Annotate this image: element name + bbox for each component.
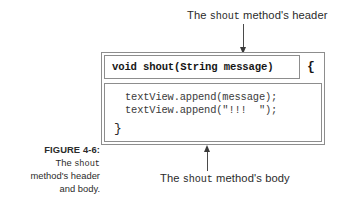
arrow-head xyxy=(204,145,210,152)
open-brace-glyph: { xyxy=(307,59,315,74)
header-callout-prefix: The xyxy=(187,9,210,21)
header-callout-suffix: method's header xyxy=(240,9,328,21)
figure-caption-text-a: The xyxy=(55,157,74,168)
figure-caption: FIGURE 4-6: The shout method's header an… xyxy=(8,144,100,195)
arrow-down-icon xyxy=(239,24,248,54)
arrow-shaft xyxy=(243,24,244,48)
method-header-box: void shout(String message) xyxy=(104,55,300,79)
figure-caption-method-name: shout xyxy=(74,159,100,169)
code-line: textView.append("!!! "); xyxy=(125,104,277,116)
code-line: textView.append(message); xyxy=(125,91,277,103)
body-callout-method-name: shout xyxy=(183,174,213,185)
body-callout-label: The shout method's body xyxy=(160,172,290,186)
figure-caption-line-2: method's header xyxy=(8,170,100,183)
method-body-box: textView.append(message); textView.appen… xyxy=(104,83,322,142)
header-callout-method-name: shout xyxy=(210,11,240,22)
arrow-shaft xyxy=(207,152,208,171)
body-callout-suffix: method's body xyxy=(213,172,290,184)
figure-illustration: The shout method's header void shout(Str… xyxy=(0,0,353,199)
body-callout-prefix: The xyxy=(160,172,183,184)
close-brace-glyph: } xyxy=(114,121,122,136)
method-header-code: void shout(String message) xyxy=(105,61,273,73)
figure-caption-line-3: and body. xyxy=(8,183,100,196)
header-callout-label: The shout method's header xyxy=(187,9,328,23)
arrow-up-icon xyxy=(203,145,212,171)
figure-number: FIGURE 4-6: xyxy=(8,144,100,157)
figure-caption-line-1: The shout xyxy=(8,157,100,171)
